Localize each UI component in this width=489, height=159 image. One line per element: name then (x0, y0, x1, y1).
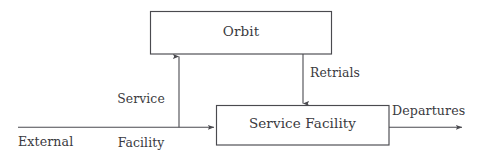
external-arrivals-edge-label: External Arrivals (18, 103, 92, 159)
service-facility-full-line-1: Service (105, 92, 177, 107)
service-facility-node-label: Service Facility (216, 116, 389, 131)
departures-edge-label: Departures (392, 104, 488, 118)
external-arrivals-line-1: External (18, 134, 92, 149)
service-facility-full-line-2: Facility (105, 136, 177, 151)
retrials-edge-label: Retrials (310, 66, 380, 80)
service-facility-full-edge-label: Service Facility Full (105, 63, 177, 159)
orbit-node-label: Orbit (150, 24, 332, 39)
diagram-canvas: Orbit Service Facility Service Facility … (0, 0, 489, 159)
